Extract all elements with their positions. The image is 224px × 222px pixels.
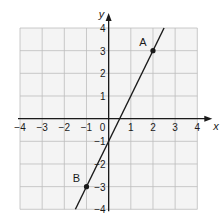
x-axis-label: x <box>212 120 219 132</box>
y-tick-label: 2 <box>100 68 106 79</box>
x-tick-label: −1 <box>81 122 93 133</box>
y-axis-label: y <box>98 8 106 20</box>
x-tick-label: −4 <box>14 122 26 133</box>
y-tick-label: 3 <box>100 46 106 57</box>
y-tick-label: −1 <box>94 136 106 147</box>
y-tick-label: −3 <box>94 182 106 193</box>
point-a-label: A <box>139 36 147 48</box>
point-a-marker <box>150 48 155 53</box>
x-axis-arrow-icon <box>204 116 212 122</box>
y-tick-label: 4 <box>100 23 106 34</box>
y-axis-arrow-icon <box>106 13 112 21</box>
coordinate-graph: xy −4−3−2−101234−4−3−2−11234 AB <box>0 0 224 222</box>
point-b-label: B <box>73 172 80 184</box>
x-tick-label: 0 <box>100 122 106 133</box>
x-tick-label: 1 <box>128 122 134 133</box>
x-tick-label: −3 <box>36 122 48 133</box>
x-tick-label: 2 <box>150 122 156 133</box>
y-tick-label: −4 <box>94 204 106 215</box>
point-b-marker <box>84 184 89 189</box>
x-tick-label: −2 <box>59 122 71 133</box>
x-tick-label: 3 <box>172 122 178 133</box>
x-tick-label: 4 <box>195 122 201 133</box>
y-tick-label: 1 <box>100 91 106 102</box>
